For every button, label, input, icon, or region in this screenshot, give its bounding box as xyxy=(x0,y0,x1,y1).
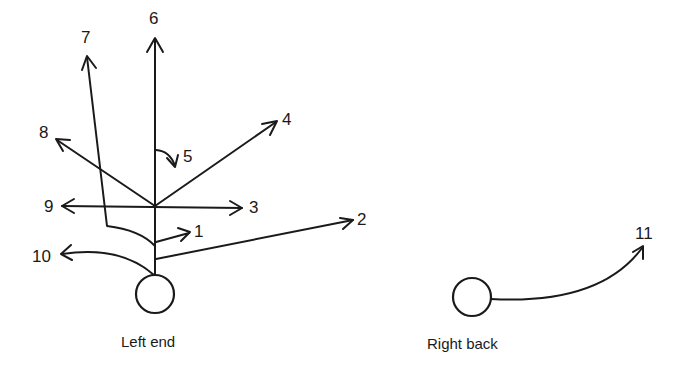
route-label-4: 4 xyxy=(282,111,291,128)
route-label-7: 7 xyxy=(81,29,90,46)
route-2-path xyxy=(156,220,353,259)
route-7-path xyxy=(87,57,155,246)
route-8-path xyxy=(57,140,155,206)
route-10-path xyxy=(62,252,154,275)
route-label-10: 10 xyxy=(32,248,51,265)
route-9-3-path xyxy=(62,206,242,208)
right-back-player-icon xyxy=(453,278,491,316)
route-label-9: 9 xyxy=(44,198,53,215)
route-label-5: 5 xyxy=(183,148,192,165)
route-label-2: 2 xyxy=(357,211,366,228)
route-label-3: 3 xyxy=(249,199,258,216)
route-label-1: 1 xyxy=(194,223,203,240)
left-end-caption: Left end xyxy=(121,334,175,349)
route-label-8: 8 xyxy=(39,124,48,141)
route-label-11: 11 xyxy=(635,225,653,242)
route-11-path xyxy=(491,248,642,300)
route-diagram xyxy=(0,0,687,377)
route-2-arrowhead-icon xyxy=(340,218,353,229)
right-back-caption: Right back xyxy=(427,336,498,351)
route-label-6: 6 xyxy=(149,10,158,27)
left-end-player-icon xyxy=(136,275,174,313)
